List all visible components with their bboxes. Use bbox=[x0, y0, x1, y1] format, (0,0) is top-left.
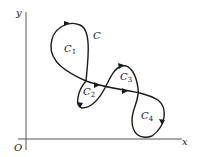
origin-label: O bbox=[14, 143, 22, 153]
region-label-c3: C3 bbox=[120, 72, 132, 84]
arrow-icon bbox=[122, 88, 128, 94]
x-axis-label: x bbox=[182, 137, 188, 147]
region-label-c1: C1 bbox=[64, 44, 76, 56]
arrow-icon bbox=[159, 119, 165, 125]
closed-curve-diagram: y x O C C1 C2 C3 C4 bbox=[0, 0, 199, 157]
region-label-c4: C4 bbox=[141, 111, 153, 123]
curve-label: C bbox=[93, 31, 101, 41]
region-label-c2: C2 bbox=[83, 87, 95, 99]
y-axis-label: y bbox=[16, 8, 22, 18]
diagram-canvas bbox=[0, 0, 199, 157]
